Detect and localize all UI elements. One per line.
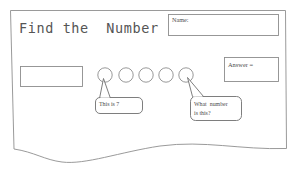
page-title: Find the Number	[19, 21, 159, 35]
answer-field-label: Answer =	[228, 62, 253, 69]
callout-right-line-2: is this?	[194, 110, 211, 116]
worksheet-canvas: Find the Number Name: Answer = This is 7…	[0, 0, 295, 178]
callout-right-line-1: What number	[194, 101, 228, 107]
callout-left-label: This is 7	[99, 101, 119, 107]
name-field-label: Name:	[172, 17, 189, 24]
text-layer: Find the Number Name: Answer = This is 7…	[0, 0, 295, 178]
callout-right-label: What numberis this?	[194, 100, 228, 118]
